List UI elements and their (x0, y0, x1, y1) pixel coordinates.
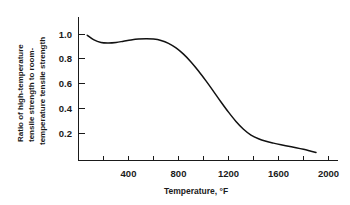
y-axis-tick-labels: 1.0 0.8 0.6 0.4 0.2 (59, 29, 73, 139)
y-axis-label-group: Ratio of high-temperature tensile streng… (16, 37, 47, 145)
tensile-strength-ratio-chart: Ratio of high-temperature tensile streng… (0, 0, 350, 205)
y-axis-label-line-2: tensile strength to room- (27, 47, 36, 142)
y-tick-label-0.6: 0.6 (59, 78, 72, 89)
y-tick-label-1.0: 1.0 (59, 29, 72, 40)
y-axis-label-line-1: Ratio of high-temperature (16, 44, 25, 142)
x-tick-label-1600: 1600 (268, 168, 289, 179)
x-axis-tick-marks (104, 156, 329, 161)
data-curve-tensile-ratio (87, 35, 316, 152)
y-tick-label-0.2: 0.2 (59, 128, 72, 139)
y-axis-label-line-3: temperature tensile strength (38, 37, 47, 145)
x-axis-title: Temperature, °F (164, 186, 228, 196)
y-tick-label-0.4: 0.4 (59, 103, 73, 114)
x-tick-label-800: 800 (171, 168, 187, 179)
y-axis-tick-marks (79, 34, 85, 133)
figure-container: Ratio of high-temperature tensile streng… (0, 0, 350, 205)
x-tick-label-2000: 2000 (318, 168, 339, 179)
y-tick-label-0.8: 0.8 (59, 53, 72, 64)
x-tick-label-400: 400 (121, 168, 137, 179)
x-tick-label-1200: 1200 (218, 168, 239, 179)
x-axis-tick-labels: 400 800 1200 1600 2000 (121, 168, 340, 179)
